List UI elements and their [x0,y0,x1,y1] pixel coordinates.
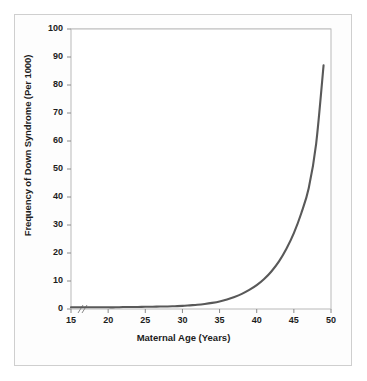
y-tick-label-30: 30 [29,219,63,229]
y-tick-label-40: 40 [29,191,63,201]
plot-border [71,29,331,309]
x-tick-label-50: 50 [316,315,346,325]
y-tick-label-60: 60 [29,135,63,145]
x-tick-label-45: 45 [279,315,309,325]
x-tick-label-20: 20 [93,315,123,325]
y-tick-label-50: 50 [29,163,63,173]
y-tick-label-20: 20 [29,247,63,257]
y-axis-title: Frequency of Down Syndrome (Per 1000) [22,41,33,251]
x-tick-label-30: 30 [167,315,197,325]
y-tick-label-100: 100 [29,23,63,33]
y-tick-label-70: 70 [29,107,63,117]
y-tick-marks [67,29,71,309]
y-tick-label-80: 80 [29,79,63,89]
x-tick-label-35: 35 [205,315,235,325]
x-tick-label-25: 25 [130,315,160,325]
y-tick-label-90: 90 [29,51,63,61]
y-tick-label-0: 0 [29,303,63,313]
x-axis-title: Maternal Age (Years) [0,332,367,343]
x-tick-label-15: 15 [56,315,86,325]
x-tick-marks [71,309,331,313]
y-tick-label-10: 10 [29,275,63,285]
x-tick-label-40: 40 [242,315,272,325]
